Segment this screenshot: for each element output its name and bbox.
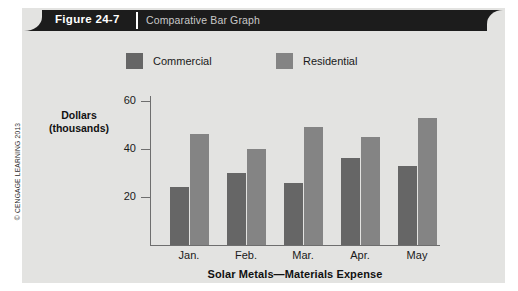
x-axis-line	[150, 245, 440, 246]
x-axis-label: Feb.	[216, 249, 276, 261]
x-axis-label: Jan.	[159, 249, 219, 261]
bar-group	[227, 96, 266, 245]
bar-residential	[304, 127, 323, 245]
bars-layer	[150, 96, 440, 245]
y-axis-tick	[141, 101, 150, 102]
bar-group	[284, 96, 323, 245]
header-divider	[136, 12, 138, 29]
figure-number: Figure 24-7	[55, 13, 120, 25]
bar-residential	[190, 134, 209, 245]
bar-group	[341, 96, 380, 245]
copyright-notice: © CENGAGE LEARNING 2013	[14, 122, 21, 222]
x-axis-label: May	[387, 249, 447, 261]
y-axis-title-line2: (thousands)	[42, 122, 116, 135]
bar-group	[398, 96, 437, 245]
y-axis-tick	[141, 149, 150, 150]
bar-commercial	[341, 158, 360, 245]
chart-body: Commercial Residential Dollars (thousand…	[22, 31, 505, 283]
bar-commercial	[227, 173, 246, 245]
y-axis-tick-label: 40	[110, 142, 136, 154]
y-axis-title: Dollars (thousands)	[42, 109, 116, 134]
bar-residential	[418, 118, 437, 245]
bar-commercial	[284, 183, 303, 245]
bar-residential	[247, 149, 266, 245]
plot-area: Dollars (thousands) 204060 Jan.Feb.Mar.A…	[22, 31, 505, 283]
y-axis-tick-label: 60	[110, 94, 136, 106]
x-axis-label: Mar.	[273, 249, 333, 261]
bar-commercial	[398, 166, 417, 245]
figure-caption: Comparative Bar Graph	[146, 14, 260, 26]
bar-commercial	[170, 187, 189, 245]
figure-card: Figure 24-7 Comparative Bar Graph Commer…	[22, 8, 505, 283]
y-axis-title-line1: Dollars	[42, 109, 116, 122]
chart-title: Solar Metals—Materials Expense	[150, 268, 440, 280]
bar-group	[170, 96, 209, 245]
x-axis-label: Apr.	[330, 249, 390, 261]
page-root: © CENGAGE LEARNING 2013 Figure 24-7 Comp…	[0, 0, 518, 291]
bar-residential	[361, 137, 380, 245]
figure-header-bar: Figure 24-7 Comparative Bar Graph	[22, 8, 505, 31]
y-axis-tick	[141, 197, 150, 198]
y-axis-tick-label: 20	[110, 190, 136, 202]
